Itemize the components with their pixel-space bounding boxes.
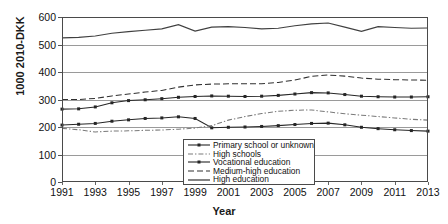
x-tick-label: 2007 (316, 186, 339, 198)
x-tick-label: 2009 (350, 186, 373, 198)
x-tick-label: 1993 (84, 186, 107, 198)
legend-symbol (186, 176, 212, 184)
x-tick-label: 1991 (50, 186, 73, 198)
legend-label: High education (213, 175, 269, 184)
x-tick-label: 1999 (183, 186, 206, 198)
legend-symbol (186, 150, 212, 158)
line-chart-figure: 1000 2010-DKK 0100200300400500600 199119… (0, 0, 448, 224)
x-tick-label: 2005 (283, 186, 306, 198)
x-tick-mark (361, 182, 362, 185)
x-tick-label: 2001 (217, 186, 240, 198)
x-tick-label: 1997 (150, 186, 173, 198)
legend-item: High education (186, 175, 312, 184)
y-tick-label: 400 (38, 66, 56, 78)
y-tick-label: 100 (38, 149, 56, 161)
x-tick-label: 1995 (117, 186, 140, 198)
x-tick-mark (328, 182, 329, 185)
y-tick-label: 200 (38, 121, 56, 133)
legend-symbol (186, 167, 212, 175)
y-axis-label: 1000 2010-DKK (14, 0, 34, 168)
x-tick-mark (129, 182, 130, 185)
y-tick-label: 300 (38, 94, 56, 106)
x-axis-label: Year (0, 205, 448, 217)
x-tick-mark (95, 182, 96, 185)
x-tick-mark (62, 182, 63, 185)
x-tick-label: 2013 (416, 186, 439, 198)
legend-symbol (186, 141, 212, 149)
x-tick-label: 2011 (383, 186, 406, 198)
chart-legend: Primary school or unknownHigh schoolsVoc… (183, 139, 315, 185)
legend-symbol (186, 158, 212, 166)
y-tick-label: 600 (38, 11, 56, 23)
x-tick-mark (428, 182, 429, 185)
x-tick-label: 2003 (250, 186, 273, 198)
x-tick-mark (395, 182, 396, 185)
x-tick-mark (162, 182, 163, 185)
y-tick-label: 500 (38, 39, 56, 51)
